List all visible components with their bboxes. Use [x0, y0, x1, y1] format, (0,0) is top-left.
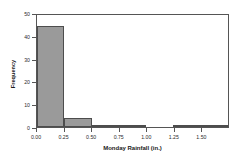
histogram-bar [37, 26, 64, 127]
x-tick-mark-0 [36, 128, 37, 132]
x-tick-label-1: 0.25 [59, 134, 69, 140]
y-tick-label-30: 30 [0, 57, 32, 63]
y-axis-title: Frequency [10, 39, 16, 109]
y-tick-label-20: 20 [0, 79, 32, 85]
histogram-bar [64, 118, 91, 127]
y-tick-label-40: 40 [0, 34, 32, 40]
x-tick-label-4: 1.00 [141, 134, 151, 140]
x-tick-label-0: 0.00 [31, 134, 41, 140]
x-tick-label-5: 1.25 [169, 134, 179, 140]
histogram-bar [92, 125, 119, 127]
x-tick-mark-2 [91, 128, 92, 132]
x-tick-label-2: 0.50 [86, 134, 96, 140]
histogram-bar [201, 125, 228, 127]
y-tick-label-50: 50 [0, 11, 32, 17]
histogram-bar [173, 125, 200, 127]
x-tick-label-3: 0.75 [114, 134, 124, 140]
plot-area [37, 15, 228, 127]
x-tick-mark-5 [174, 128, 175, 132]
x-tick-mark-6 [201, 128, 202, 132]
x-tick-mark-3 [119, 128, 120, 132]
y-tick-label-10: 10 [0, 102, 32, 108]
x-tick-label-6: 1.50 [196, 134, 206, 140]
x-tick-mark-1 [64, 128, 65, 132]
histogram-bar [119, 125, 146, 127]
y-tick-label-0: 0 [0, 125, 32, 131]
x-tick-mark-4 [146, 128, 147, 132]
histogram-chart: 0 10 20 30 40 50 0.00 0.25 0.50 0.75 1.0… [0, 0, 245, 159]
plot-frame [36, 14, 229, 128]
x-axis-title: Monday Rainfall (in.) [36, 145, 229, 151]
